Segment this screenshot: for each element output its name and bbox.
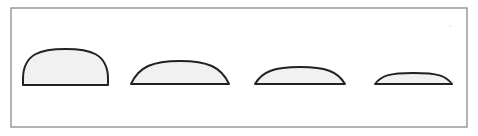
cap-1	[23, 49, 108, 85]
stray-dot	[449, 25, 451, 27]
droplet-diagram	[0, 0, 478, 136]
cap-4	[375, 73, 452, 84]
cap-3	[255, 67, 345, 84]
cap-shapes	[23, 49, 452, 85]
cap-2	[131, 61, 229, 84]
